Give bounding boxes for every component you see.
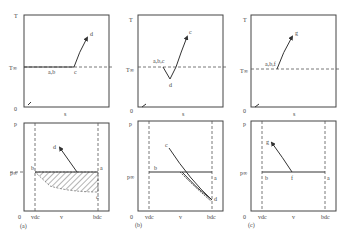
x-axis-label: s bbox=[182, 111, 185, 117]
vdc-label: vdc bbox=[31, 214, 40, 220]
thermodynamic-diagram: T T∞ 0 s a,b c d T T∞ 0 s a,b,c d c T T∞… bbox=[0, 0, 347, 237]
y-axis-label: T bbox=[129, 17, 133, 23]
point-d-label: d bbox=[90, 31, 93, 37]
ref-line-label: T∞ bbox=[9, 65, 17, 71]
y-axis-label: T bbox=[243, 17, 247, 23]
origin-label: 0 bbox=[14, 106, 17, 112]
point-a-label: a bbox=[327, 175, 330, 181]
point-b-label: b bbox=[31, 165, 34, 171]
point-d-label: d bbox=[214, 196, 217, 202]
ref-line-label: p∞ bbox=[10, 170, 17, 176]
point-d-label: d bbox=[169, 82, 172, 88]
vdc-label: vdc bbox=[258, 214, 267, 220]
point-c-label: c bbox=[96, 194, 99, 200]
bdc-label: bdc bbox=[207, 214, 216, 220]
ts-panel-a: T T∞ 0 s a,b c d bbox=[9, 13, 112, 117]
y-axis-label: T bbox=[14, 13, 18, 19]
point-a-label: a bbox=[100, 165, 103, 171]
point-abc-label: a,b,c bbox=[153, 58, 165, 64]
y-axis-label: p bbox=[243, 121, 246, 127]
ref-line-label: p∞ bbox=[127, 174, 134, 180]
bdc-label: bdc bbox=[93, 214, 102, 220]
x-axis-label: s bbox=[293, 111, 296, 117]
ts-panel-c: T T∞ 0 s a,b,f g bbox=[240, 15, 339, 117]
x-axis-label: s bbox=[64, 111, 67, 117]
caption-a: (a) bbox=[20, 223, 27, 230]
point-f-label: f bbox=[291, 175, 293, 181]
point-a-label: a bbox=[214, 175, 217, 181]
origin-label: 0 bbox=[243, 214, 246, 220]
y-axis-label: p bbox=[14, 121, 17, 127]
x-axis-label: v bbox=[292, 214, 295, 220]
point-ab-label: a,b bbox=[48, 69, 55, 75]
ref-line-label: p∞ bbox=[240, 170, 247, 176]
origin-label: 0 bbox=[243, 108, 246, 114]
pv-panel-a: p p∞ b a d c 0 vdc v bdc (a) bbox=[10, 121, 109, 230]
point-c-label: c bbox=[74, 69, 77, 75]
origin-label: 0 bbox=[18, 214, 21, 220]
caption-b: (b) bbox=[135, 222, 142, 229]
pv-panel-c: p p∞ b f a g 0 vdc v bdc (c) bbox=[240, 121, 336, 229]
caption-c: (c) bbox=[248, 222, 255, 229]
point-abf-label: a,b,f bbox=[265, 61, 276, 67]
point-c-label: c bbox=[189, 29, 192, 35]
point-b-label: b bbox=[265, 175, 268, 181]
bdc-label: bdc bbox=[321, 214, 330, 220]
ref-line-label: T∞ bbox=[240, 68, 248, 74]
ref-line-label: T∞ bbox=[126, 67, 134, 73]
x-axis-label: v bbox=[179, 214, 182, 220]
point-g-label: g bbox=[266, 139, 269, 145]
ts-panel-b: T T∞ 0 s a,b,c d c bbox=[126, 15, 226, 117]
point-d-label: d bbox=[53, 144, 56, 150]
pv-panel-b: p p∞ b a c d 0 vdc v bdc (b) bbox=[127, 121, 223, 229]
x-axis-label: v bbox=[60, 214, 63, 220]
origin-label: 0 bbox=[130, 214, 133, 220]
point-b-label: b bbox=[154, 165, 157, 171]
origin-label: 0 bbox=[130, 108, 133, 114]
y-axis-label: p bbox=[129, 121, 132, 127]
point-c-label: c bbox=[165, 142, 168, 148]
point-g-label: g bbox=[295, 30, 298, 36]
vdc-label: vdc bbox=[145, 214, 154, 220]
